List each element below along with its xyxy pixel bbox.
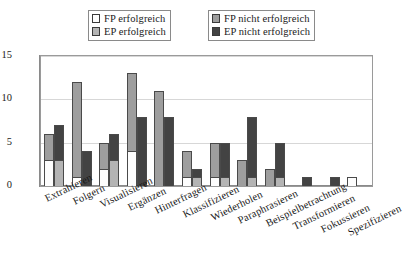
legend-swatch-ep-erfolgreich <box>92 27 100 36</box>
legend-swatch-fp-erfolgreich <box>92 14 100 23</box>
bar-group <box>44 125 64 186</box>
legend-label-fp-erfolgreich: FP erfolgreich <box>104 13 165 24</box>
bar-fp-erfolgreich-5 <box>182 177 192 186</box>
legend-swatch-ep-nicht-erfolgreich <box>212 27 220 36</box>
x-axis-labels: ExtrahierenFolgernVisualisierenErgänzenH… <box>0 188 386 270</box>
bar-ep-erfolgreich-0 <box>54 160 64 186</box>
bar-fp <box>210 143 220 186</box>
legend-box-erfolgreich: FP erfolgreich EP erfolgreich <box>88 10 171 41</box>
bar-ep-erfolgreich-2 <box>109 160 119 186</box>
bar-ep <box>247 117 257 186</box>
bar-fp-erfolgreich-11 <box>347 177 357 186</box>
legend-item-ep-nicht-erfolgreich: EP nicht erfolgreich <box>212 25 310 38</box>
legend-label-ep-erfolgreich: EP erfolgreich <box>104 26 166 37</box>
bar-group <box>237 117 257 186</box>
bar-ep-nicht-erfolgreich-9 <box>302 177 312 186</box>
y-tick-5: 5 <box>0 137 12 147</box>
bar-group <box>127 73 147 186</box>
bar-fp-nicht-erfolgreich-1 <box>72 82 82 177</box>
bar-ep-nicht-erfolgreich-2 <box>109 134 119 160</box>
bar-ep-nicht-erfolgreich-6 <box>220 143 230 178</box>
bar-ep <box>54 125 64 186</box>
bar-series-container <box>41 56 372 186</box>
bar-fp <box>265 169 275 186</box>
bar-group <box>99 134 119 186</box>
legend-label-ep-nicht-erfolgreich: EP nicht erfolgreich <box>224 26 310 37</box>
bar-fp <box>237 160 247 186</box>
legend-item-fp-nicht-erfolgreich: FP nicht erfolgreich <box>212 12 310 25</box>
bar-fp-nicht-erfolgreich-5 <box>182 151 192 177</box>
bar-fp-erfolgreich-6 <box>210 177 220 186</box>
bar-ep-nicht-erfolgreich-8 <box>275 143 285 178</box>
bar-fp-nicht-erfolgreich-0 <box>44 134 54 160</box>
bar-ep <box>275 143 285 186</box>
bar-group <box>210 143 230 186</box>
bar-ep-nicht-erfolgreich-7 <box>247 117 257 178</box>
bar-ep-nicht-erfolgreich-0 <box>54 125 64 160</box>
bar-fp <box>182 151 192 186</box>
bar-fp <box>154 91 164 186</box>
bar-ep <box>109 134 119 186</box>
bar-group <box>265 143 285 186</box>
bar-ep <box>220 143 230 186</box>
legend-item-fp-erfolgreich: FP erfolgreich <box>92 12 166 25</box>
bar-group <box>182 151 202 186</box>
bar-fp-nicht-erfolgreich-7 <box>237 160 247 186</box>
bar-fp-nicht-erfolgreich-8 <box>265 169 275 186</box>
chart-legend: FP erfolgreich EP erfolgreich FP nicht e… <box>88 10 315 41</box>
bar-ep-nicht-erfolgreich-5 <box>192 169 202 178</box>
y-tick-10: 10 <box>0 93 12 103</box>
bar-ep <box>302 177 312 186</box>
bar-fp <box>99 143 109 186</box>
bar-fp-nicht-erfolgreich-2 <box>99 143 109 169</box>
bar-group <box>154 91 174 186</box>
y-tick-15: 15 <box>0 50 12 60</box>
bar-ep-erfolgreich-8 <box>275 177 285 186</box>
bar-ep-nicht-erfolgreich-4 <box>164 117 174 186</box>
bar-fp-nicht-erfolgreich-4 <box>154 91 164 186</box>
bar-ep-erfolgreich-7 <box>247 177 257 186</box>
legend-swatch-fp-nicht-erfolgreich <box>212 14 220 23</box>
legend-item-ep-erfolgreich: EP erfolgreich <box>92 25 166 38</box>
bar-fp-nicht-erfolgreich-3 <box>127 73 137 151</box>
bar-fp-nicht-erfolgreich-6 <box>210 143 220 178</box>
bar-fp <box>44 134 54 186</box>
bar-fp <box>72 82 82 186</box>
bar-fp-erfolgreich-0 <box>44 160 54 186</box>
bar-group <box>347 177 367 186</box>
legend-label-fp-nicht-erfolgreich: FP nicht erfolgreich <box>224 13 310 24</box>
bar-fp <box>127 73 137 186</box>
legend-box-nicht-erfolgreich: FP nicht erfolgreich EP nicht erfolgreic… <box>208 10 315 41</box>
bar-fp <box>347 177 357 186</box>
bar-group <box>292 177 312 186</box>
bar-ep-erfolgreich-6 <box>220 177 230 186</box>
bar-ep <box>164 117 174 186</box>
